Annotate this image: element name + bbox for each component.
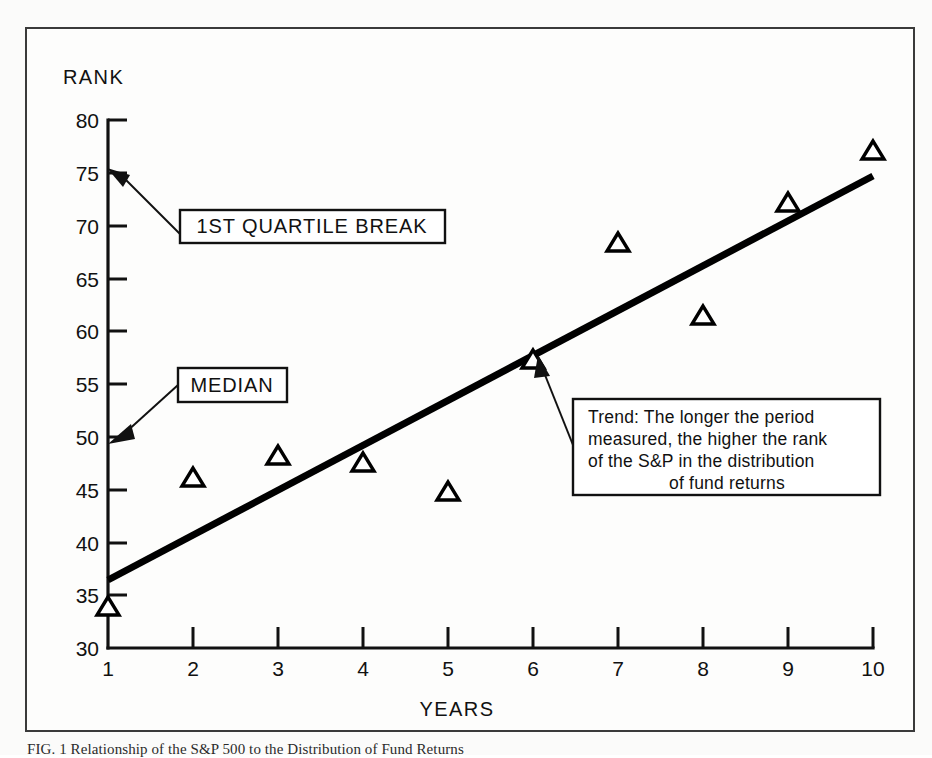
- x-axis-ticks: [193, 627, 873, 648]
- data-point-year-4: [352, 453, 374, 471]
- data-point-year-5: [437, 482, 459, 500]
- y-tick-50: 50: [76, 426, 99, 449]
- data-point-year-7: [607, 233, 629, 251]
- y-tick-35: 35: [76, 584, 99, 607]
- trend-note-line-2: measured, the higher the rank: [588, 429, 827, 449]
- y-tick-80: 80: [76, 109, 99, 132]
- data-point-year-10: [862, 141, 884, 159]
- median-leader-line: [125, 385, 178, 433]
- x-tick-5: 5: [442, 657, 454, 680]
- first-quartile-leader-line: [123, 177, 180, 234]
- y-axis-ticks: [108, 120, 127, 595]
- y-tick-70: 70: [76, 215, 99, 238]
- x-tick-6: 6: [527, 657, 539, 680]
- figure-frame: RANK 80 75 70 65 60: [25, 27, 915, 732]
- trend-note-leader-line: [543, 370, 573, 445]
- x-tick-3: 3: [272, 657, 284, 680]
- data-point-year-3: [267, 446, 289, 464]
- x-tick-1: 1: [102, 657, 114, 680]
- y-tick-75: 75: [76, 162, 99, 185]
- trend-note-line-3: of the S&P in the distribution: [588, 451, 815, 471]
- y-tick-40: 40: [76, 532, 99, 555]
- median-annotation-label: MEDIAN: [190, 374, 273, 396]
- median-arrowhead: [108, 424, 135, 444]
- rank-vs-years-scatter-chart: RANK 80 75 70 65 60: [27, 29, 913, 730]
- y-tick-65: 65: [76, 268, 99, 291]
- y-tick-55: 55: [76, 373, 99, 396]
- data-point-year-2: [182, 468, 204, 486]
- data-point-year-9: [777, 193, 799, 211]
- x-tick-4: 4: [357, 657, 369, 680]
- annotation-trend-note[interactable]: Trend: The longer the period measured, t…: [534, 355, 880, 495]
- y-axis-tick-labels: 80 75 70 65 60 55 50 45 40 35 30: [76, 109, 99, 660]
- x-axis-title: YEARS: [420, 698, 495, 720]
- x-tick-7: 7: [612, 657, 624, 680]
- y-tick-30: 30: [76, 637, 99, 660]
- y-tick-60: 60: [76, 320, 99, 343]
- data-point-year-1: [97, 597, 119, 615]
- first-quartile-annotation-label: 1ST QUARTILE BREAK: [196, 215, 427, 237]
- x-tick-8: 8: [697, 657, 709, 680]
- y-axis-title: RANK: [63, 66, 124, 88]
- x-tick-10: 10: [861, 657, 884, 680]
- x-tick-9: 9: [782, 657, 794, 680]
- x-tick-2: 2: [187, 657, 199, 680]
- trend-note-line-1: Trend: The longer the period: [588, 407, 814, 427]
- y-tick-45: 45: [76, 479, 99, 502]
- first-quartile-arrowhead: [107, 168, 130, 187]
- x-axis-tick-labels: 1 2 3 4 5 6 7 8 9 10: [102, 657, 885, 680]
- annotation-median[interactable]: MEDIAN: [108, 368, 287, 444]
- trend-note-line-4: of fund returns: [669, 473, 785, 493]
- figure-caption: FIG. 1 Relationship of the S&P 500 to th…: [27, 741, 917, 758]
- annotation-first-quartile-break[interactable]: 1ST QUARTILE BREAK: [107, 168, 445, 243]
- data-point-year-8: [692, 306, 714, 324]
